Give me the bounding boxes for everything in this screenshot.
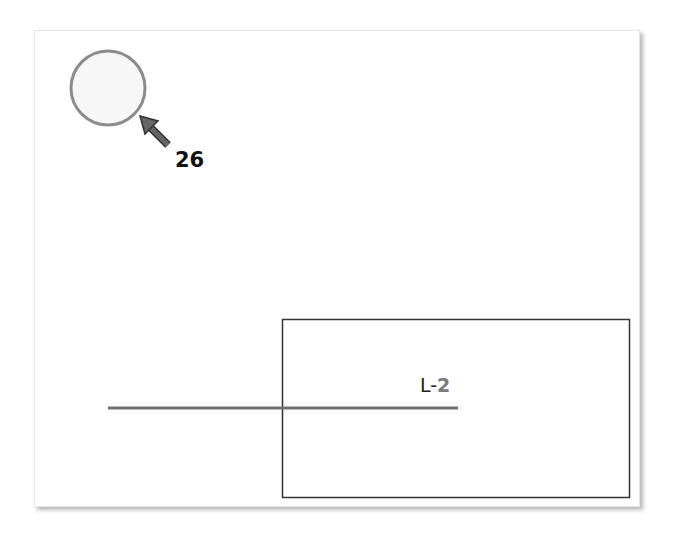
diagram-drawing bbox=[0, 0, 676, 533]
callout-arrow-icon bbox=[140, 116, 168, 145]
line-label: L-2 bbox=[420, 374, 450, 396]
circle-shape bbox=[71, 51, 145, 125]
line-label-prefix: L- bbox=[420, 374, 437, 396]
callout-label: 26 bbox=[175, 148, 204, 172]
diagram-canvas: 26 L-2 bbox=[0, 0, 676, 533]
line-label-number: 2 bbox=[437, 374, 450, 396]
